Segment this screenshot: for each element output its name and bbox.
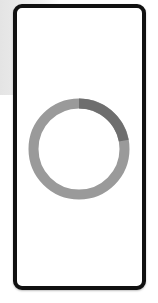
loading-spinner-icon: [28, 98, 130, 200]
caption-text: [0, 295, 158, 303]
screenshot-stage: [0, 0, 158, 303]
